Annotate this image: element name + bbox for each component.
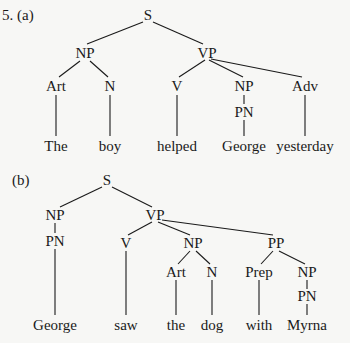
tree-node: S [103, 173, 111, 188]
tree-node: VP [197, 46, 216, 61]
word-node: George [33, 318, 77, 333]
tree-node: PN [297, 289, 316, 304]
word-node: boy [99, 139, 122, 154]
tree-node: Prep [245, 265, 273, 280]
tree-node: N [105, 79, 116, 94]
word-node: George [222, 139, 266, 154]
word-node: dog [201, 318, 224, 333]
tree-node: V [172, 79, 183, 94]
tree-node: PP [268, 236, 285, 251]
word-node: helped [157, 139, 197, 154]
tree-node: PN [234, 105, 253, 120]
tree-node: S [144, 8, 152, 23]
tree-node: NP [234, 79, 253, 94]
word-node: with [246, 318, 273, 333]
label-b: (b) [12, 173, 30, 188]
tree-node: Art [166, 265, 186, 280]
tree-node: NP [297, 265, 316, 280]
tree-node: N [207, 265, 218, 280]
word-node: the [167, 318, 185, 333]
tree-node: Adv [292, 79, 318, 94]
tree-node: Art [46, 79, 66, 94]
syntax-tree-figure: 5. (a) (b) SNPVPArtNVNPPNAdvTheboyhelped… [0, 0, 350, 343]
word-node: The [44, 139, 67, 154]
word-node: yesterday [276, 139, 333, 154]
tree-node: NP [183, 236, 202, 251]
tree-node: NP [75, 46, 94, 61]
word-node: Myrna [287, 318, 327, 333]
tree-node: V [121, 236, 132, 251]
tree-node: VP [145, 208, 164, 223]
label-a: 5. (a) [2, 8, 34, 23]
word-node: saw [114, 318, 137, 333]
tree-node: NP [45, 208, 64, 223]
tree-node: PN [45, 234, 64, 249]
